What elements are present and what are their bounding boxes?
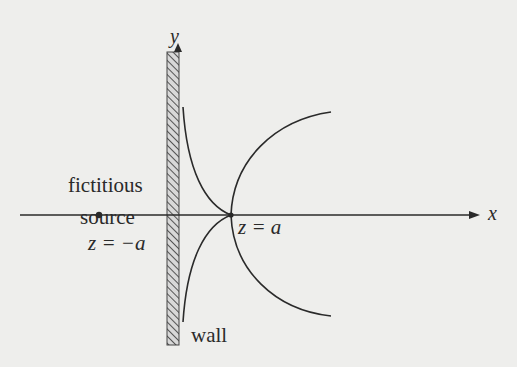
source-label: source	[80, 207, 135, 228]
wall	[167, 52, 179, 345]
curve-upper-right	[231, 112, 331, 215]
wall-label: wall	[191, 325, 227, 346]
x-axis-arrow-icon	[469, 211, 480, 219]
x-axis-label: x	[488, 203, 497, 223]
curve-upper-left	[183, 107, 231, 215]
curve-lower-left	[183, 215, 231, 322]
source-position-label: z = −a	[88, 233, 146, 254]
y-axis-label: y	[170, 26, 179, 46]
fictitious-label: fictitious	[68, 175, 143, 196]
real-position-label: z = a	[238, 217, 281, 238]
